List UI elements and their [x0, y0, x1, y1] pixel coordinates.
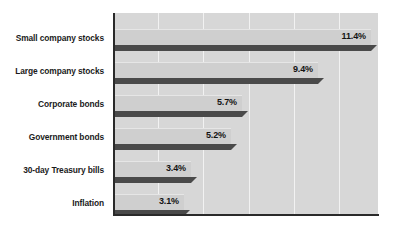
bar-value-label: 5.7%	[184, 97, 237, 107]
category-label-column: Small company stocks Large company stock…	[0, 13, 110, 215]
category-label-small-company-stocks: Small company stocks	[0, 33, 104, 43]
bar-shadow	[113, 177, 191, 183]
bar-value-label: 3.1%	[126, 196, 179, 206]
bar-bevel	[318, 78, 324, 84]
bar-value-label: 9.4%	[260, 64, 313, 74]
category-label-government-bonds: Government bonds	[0, 132, 104, 142]
y-axis-line	[113, 13, 115, 216]
bar-bevel	[191, 177, 197, 183]
bar-shadow	[113, 78, 318, 84]
bar-value-label: 11.4%	[313, 31, 366, 41]
category-label-corporate-bonds: Corporate bonds	[0, 99, 104, 109]
bar-shadow	[113, 144, 231, 150]
bar-bevel	[242, 111, 248, 117]
category-label-large-company-stocks: Large company stocks	[0, 66, 104, 76]
bar-value-label: 3.4%	[133, 163, 186, 173]
plot-area: 11.4% 9.4% 5.7% 5.2% 3.4%	[113, 13, 378, 215]
x-axis-line	[113, 214, 379, 216]
bar-bevel	[371, 45, 377, 51]
bar-chart: Small company stocks Large company stock…	[0, 0, 403, 232]
category-label-30-day-treasury-bills: 30-day Treasury bills	[0, 165, 104, 175]
bar-shadow	[113, 111, 242, 117]
bar-shadow	[113, 45, 371, 51]
category-label-inflation: Inflation	[0, 198, 104, 208]
bar-value-label: 5.2%	[173, 130, 226, 140]
bar-bevel	[231, 144, 237, 150]
